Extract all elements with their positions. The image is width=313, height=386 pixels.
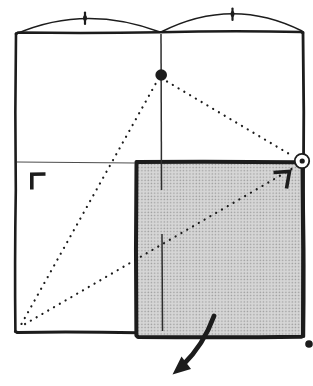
diagram-canvas xyxy=(0,0,313,386)
horizontal-crease-line xyxy=(17,162,135,163)
origami-step-diagram xyxy=(0,0,313,386)
outer-square-left-edge xyxy=(15,34,16,332)
edge-point-circle-dot xyxy=(300,158,305,163)
corner-mark-left xyxy=(32,174,46,190)
fold-arc-tick-left-blob xyxy=(83,15,87,21)
center-crease-line-lower xyxy=(162,234,163,331)
fold-arc-tick-right-blob xyxy=(231,11,235,17)
dotted-line-apex-to-circle xyxy=(167,82,294,157)
bottom-right-corner-dot xyxy=(305,340,313,348)
apex-point-dot xyxy=(155,69,167,81)
center-crease-line-upper xyxy=(161,34,162,190)
